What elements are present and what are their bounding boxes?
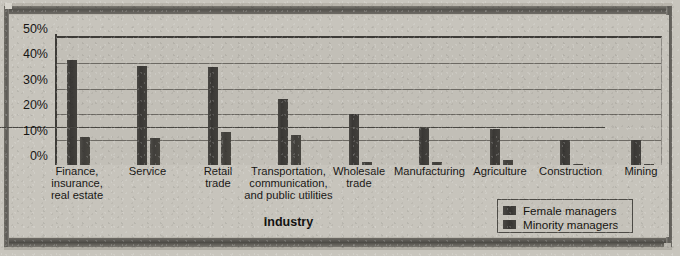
y-axis-tick-label: 10% [0, 124, 48, 138]
y-axis-tick-label: 30% [0, 73, 48, 87]
legend-item-female: Female managers [503, 203, 627, 217]
chart-figure: 50%40%30%20%10%0% Finance, insurance, re… [0, 0, 680, 256]
y-axis-tick-label: 50% [0, 22, 48, 36]
x-axis-title: Industry [89, 215, 489, 229]
legend-swatch-icon-female [503, 206, 516, 215]
legend-swatch-icon-minority [503, 220, 516, 229]
legend-label-female: Female managers [523, 204, 616, 217]
y-axis-tick-label: 20% [0, 98, 48, 112]
chart-legend: Female managers Minority managers [497, 199, 633, 233]
x-axis-category-label: Mining [581, 166, 680, 178]
y-axis-tick-label: 40% [0, 47, 48, 61]
y-axis-tick-label: 0% [0, 149, 48, 163]
legend-item-minority: Minority managers [503, 217, 627, 231]
legend-label-minority: Minority managers [523, 218, 618, 231]
